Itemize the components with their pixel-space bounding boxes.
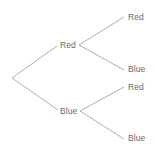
edge-red-to-blue [79, 45, 124, 70]
tree-edges-svg [0, 0, 155, 154]
node-label-level2-blue-blue: Blue [128, 134, 145, 143]
probability-tree-diagram: Red Blue Red Blue Red Blue [0, 0, 155, 154]
node-label-level1-blue: Blue [60, 107, 77, 116]
node-label-level2-blue-red: Red [128, 83, 144, 92]
edge-blue-to-blue [80, 111, 124, 139]
edge-root-to-blue [12, 78, 58, 110]
node-label-level2-red-blue: Blue [128, 65, 145, 74]
node-label-level1-red: Red [60, 41, 76, 50]
edge-blue-to-red [80, 87, 124, 111]
edge-root-to-red [12, 46, 57, 78]
edge-red-to-red [79, 17, 124, 45]
node-label-level2-red-red: Red [128, 13, 144, 22]
